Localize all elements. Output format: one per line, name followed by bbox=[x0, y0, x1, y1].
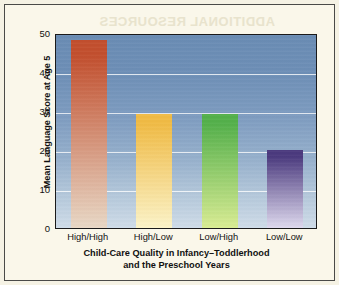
y-tick-label-10: 10 bbox=[28, 185, 50, 195]
x-tick-label-low-high: Low/High bbox=[186, 232, 252, 242]
x-tick-label-high-low: High/Low bbox=[121, 232, 187, 242]
y-tick-label-40: 40 bbox=[28, 68, 50, 78]
plot-area bbox=[55, 34, 317, 229]
y-axis-tick-labels: 01020304050 bbox=[27, 5, 50, 285]
x-axis-tick-labels: High/HighHigh/LowLow/HighLow/Low bbox=[55, 232, 317, 246]
bar-high-low bbox=[136, 114, 172, 228]
figure-container: ADDITIONAL RESOURCES Mean Language Score… bbox=[0, 0, 339, 285]
x-axis-title: Child-Care Quality in Infancy–Toddlerhoo… bbox=[29, 248, 324, 271]
x-tick-label-low-low: Low/Low bbox=[252, 232, 318, 242]
x-tick-label-high-high: High/High bbox=[55, 232, 121, 242]
y-tick-label-0: 0 bbox=[28, 224, 50, 234]
y-tick-label-20: 20 bbox=[28, 146, 50, 156]
bar-low-high bbox=[202, 114, 238, 228]
x-axis-title-line-2: and the Preschool Years bbox=[29, 260, 324, 272]
bar-low-low bbox=[267, 150, 303, 228]
y-tick-label-50: 50 bbox=[28, 29, 50, 39]
y-tick-label-30: 30 bbox=[28, 107, 50, 117]
bar-series bbox=[56, 35, 316, 228]
bar-high-high bbox=[71, 40, 107, 228]
page-showthrough-text: ADDITIONAL RESOURCES bbox=[67, 14, 307, 29]
figure-border: ADDITIONAL RESOURCES Mean Language Score… bbox=[4, 4, 335, 281]
x-axis-title-line-1: Child-Care Quality in Infancy–Toddlerhoo… bbox=[29, 248, 324, 260]
